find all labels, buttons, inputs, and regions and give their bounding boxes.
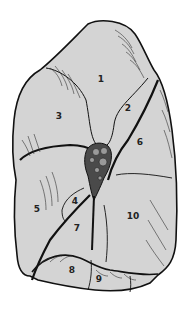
vessel-icon bbox=[93, 149, 100, 156]
segment-label-4: 4 bbox=[72, 196, 78, 206]
lung-diagram: 1 2 3 4 5 6 7 8 9 10 bbox=[0, 0, 192, 311]
segment-label-1: 1 bbox=[98, 74, 104, 84]
segment-label-10: 10 bbox=[127, 211, 140, 221]
segment-label-7: 7 bbox=[74, 223, 80, 233]
segment-label-3: 3 bbox=[56, 111, 62, 121]
segment-label-9: 9 bbox=[96, 274, 102, 284]
segment-label-8: 8 bbox=[69, 265, 75, 275]
segment-label-2: 2 bbox=[125, 103, 131, 113]
segment-label-5: 5 bbox=[34, 204, 40, 214]
segment-label-6: 6 bbox=[137, 137, 143, 147]
